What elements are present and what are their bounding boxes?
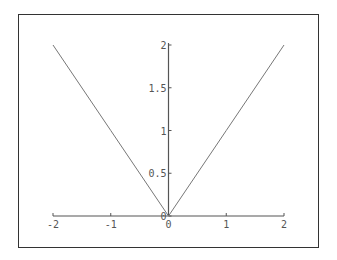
- y-tick-label: 1.5: [148, 83, 166, 94]
- y-tick-label: 1: [160, 126, 166, 137]
- y-tick-label: 2: [160, 40, 166, 51]
- x-tick-label: -2: [47, 219, 59, 230]
- chart-svg: -2-101200.511.52: [0, 0, 337, 260]
- y-tick-label: 0: [160, 211, 166, 222]
- axes: [53, 43, 284, 216]
- y-tick-label: 0.5: [148, 168, 166, 179]
- x-tick-label: 1: [223, 219, 229, 230]
- x-tick-label: -1: [105, 219, 117, 230]
- ticks: -2-101200.511.52: [47, 40, 287, 230]
- x-tick-label: 2: [281, 219, 287, 230]
